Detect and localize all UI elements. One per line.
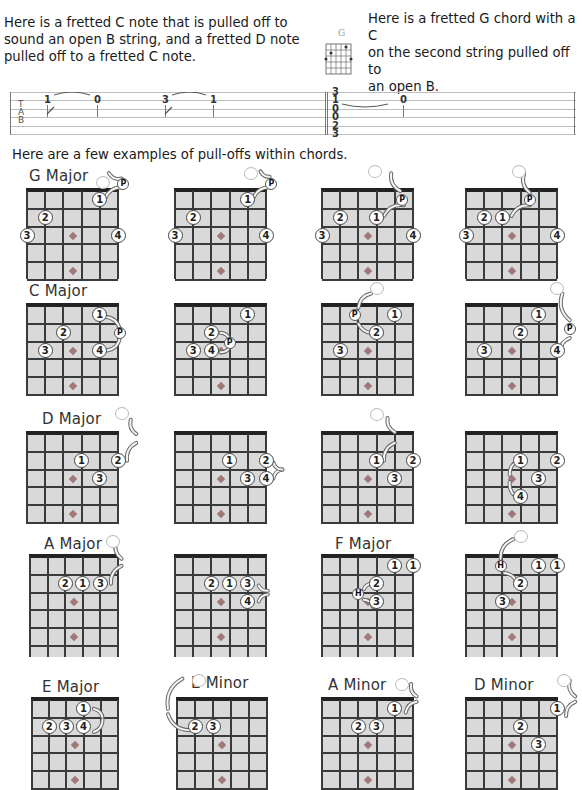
- fret-line: [322, 486, 413, 488]
- string-line: [210, 191, 212, 279]
- finger-position: 2: [204, 576, 219, 591]
- string-line: [321, 700, 323, 790]
- finger-position: 1: [495, 210, 510, 225]
- chord-diagram: D Minor123: [466, 700, 557, 790]
- open-string-circle: [550, 282, 564, 295]
- string-line: [62, 306, 64, 396]
- chord-diagram: 1234P: [175, 191, 266, 279]
- fret-inlay-marker: [218, 740, 226, 748]
- string-line: [376, 191, 378, 279]
- string-line: [483, 434, 485, 524]
- nut: [321, 697, 414, 701]
- string-line: [229, 306, 231, 396]
- fret-line: [322, 394, 413, 396]
- fret-line: [322, 770, 413, 772]
- fret-line: [32, 752, 118, 754]
- fret-line: [466, 504, 557, 506]
- nut: [176, 697, 268, 701]
- string-line: [376, 434, 378, 524]
- fret-inlay-marker: [507, 776, 515, 784]
- fret-inlay-marker: [68, 346, 76, 354]
- fret-line: [175, 609, 266, 611]
- string-line: [210, 557, 212, 657]
- open-string-circle: [514, 530, 528, 543]
- pull-off-badge: P: [114, 327, 126, 339]
- finger-position: 4: [550, 343, 565, 358]
- nut: [321, 431, 414, 435]
- fret-line: [27, 358, 118, 360]
- finger-position: 2: [333, 210, 348, 225]
- string-line: [520, 557, 522, 657]
- finger-position: 3: [168, 228, 183, 243]
- string-line: [31, 700, 33, 790]
- string-line: [117, 557, 119, 657]
- fret-line: [175, 574, 266, 576]
- chord-diagram: 1234P: [322, 191, 413, 279]
- pull-off-badge: P: [265, 178, 277, 190]
- open-string-circle: [368, 165, 382, 178]
- chord-diagram: E Major1234: [32, 700, 118, 790]
- chord-diagram: G Major1234P: [27, 191, 118, 279]
- fret-line: [322, 627, 413, 629]
- fret-line: [466, 645, 557, 647]
- fret-inlay-marker: [363, 776, 371, 784]
- nut: [465, 303, 558, 307]
- string-line: [376, 306, 378, 396]
- finger-position: 2: [204, 325, 219, 340]
- open-string-circle: [395, 678, 409, 691]
- fret-line: [175, 358, 266, 360]
- finger-position: 3: [459, 228, 474, 243]
- fret-inlay-marker: [507, 267, 515, 275]
- fret-line: [177, 735, 267, 737]
- string-line: [26, 306, 28, 396]
- fret-line: [466, 574, 557, 576]
- fret-line: [27, 341, 118, 343]
- fret-line: [322, 752, 413, 754]
- fret-line: [175, 341, 266, 343]
- fret-line: [322, 522, 413, 524]
- pull-off-badge: P: [224, 337, 236, 349]
- string-line: [82, 557, 84, 657]
- string-line: [26, 434, 28, 524]
- fret-inlay-marker: [507, 633, 515, 641]
- fret-inlay-marker: [363, 231, 371, 239]
- string-line: [538, 191, 540, 279]
- mini-chord-grid-icon: [324, 42, 356, 78]
- chord-diagram: 1234: [175, 434, 266, 524]
- finger-position: 3: [93, 576, 108, 591]
- finger-position: 3: [59, 719, 74, 734]
- finger-position: 3: [495, 594, 510, 609]
- fret-inlay-marker: [363, 633, 371, 641]
- nut: [465, 431, 558, 435]
- fret-line: [177, 752, 267, 754]
- hammer-on-badge: H: [495, 560, 507, 572]
- fretboard: [32, 700, 118, 790]
- string-line: [229, 191, 231, 279]
- fret-inlay-marker: [68, 382, 76, 390]
- fret-inlay-marker: [216, 382, 224, 390]
- fret-line: [27, 469, 118, 471]
- finger-position: 3: [20, 228, 35, 243]
- string-line: [412, 306, 414, 396]
- fret-inlay-marker: [68, 267, 76, 275]
- intro-right-line: Here is a fretted G chord with a C: [368, 10, 582, 44]
- finger-position: 1: [550, 701, 565, 716]
- finger-position: 2: [550, 453, 565, 468]
- string-line: [357, 191, 359, 279]
- fret-line: [27, 451, 118, 453]
- fret-inlay-marker: [363, 510, 371, 518]
- intro-left-line: Here is a fretted C note that is pulled …: [4, 14, 304, 31]
- fret-line: [322, 645, 413, 647]
- fret-line: [32, 735, 118, 737]
- tablature-staff: TAB10310310023: [10, 92, 576, 140]
- open-string-circle: [115, 407, 129, 420]
- string-line: [65, 700, 67, 790]
- string-line: [174, 434, 176, 524]
- fretboard: [466, 557, 557, 657]
- fret-line: [322, 592, 413, 594]
- fret-line: [466, 469, 557, 471]
- nut: [174, 188, 267, 192]
- fretboard: [30, 557, 118, 657]
- string-line: [229, 434, 231, 524]
- fret-line: [466, 735, 557, 737]
